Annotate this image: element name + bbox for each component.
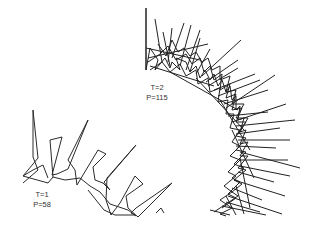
t1-label: T=1 P=58 <box>22 190 62 210</box>
t2-label: T=2 P=115 <box>137 83 177 103</box>
t2-time-label: T=2 <box>137 83 177 93</box>
t1-time-label: T=1 <box>22 190 62 200</box>
t1-count-label: P=58 <box>22 200 62 210</box>
t2-count-label: P=115 <box>137 93 177 103</box>
